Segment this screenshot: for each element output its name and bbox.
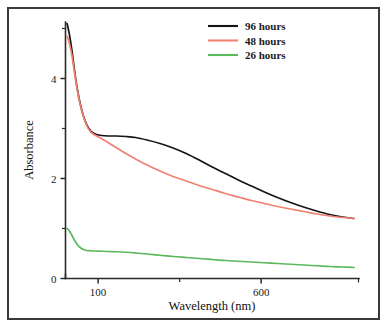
y-tick-label: 4 (51, 73, 57, 85)
legend-label: 26 hours (245, 49, 286, 61)
figure-container: 024 100600 96 hours48 hours26 hours Wave… (0, 0, 389, 328)
series-line (67, 36, 354, 219)
x-axis-tick-labels: 100600 (90, 286, 270, 298)
y-axis-title: Absorbance (22, 120, 36, 180)
series-lines (67, 24, 354, 268)
y-tick-label: 2 (51, 173, 57, 185)
x-tick-label: 100 (90, 286, 107, 298)
y-tick-label: 0 (51, 273, 57, 285)
x-tick-label: 600 (253, 286, 270, 298)
y-axis-tick-labels: 024 (51, 73, 57, 285)
legend-label: 48 hours (245, 35, 286, 47)
series-line (67, 229, 354, 268)
legend: 96 hours48 hours26 hours (208, 20, 286, 61)
chart-plot: 024 100600 96 hours48 hours26 hours Wave… (0, 0, 389, 328)
x-axis-title: Wavelength (nm) (169, 299, 256, 313)
legend-label: 96 hours (245, 20, 286, 32)
